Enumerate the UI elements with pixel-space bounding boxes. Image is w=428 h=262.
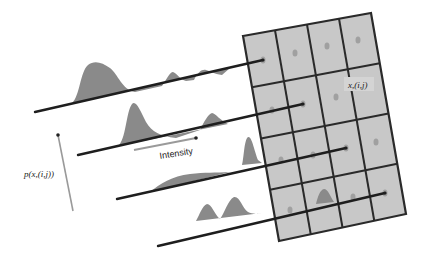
distribution-row-3-peak: [242, 137, 262, 165]
cell-dot: [293, 50, 298, 57]
cell-dot: [325, 43, 330, 50]
intensity-line-1: [35, 60, 263, 112]
endpoint-dot: [261, 58, 264, 61]
intensity-label: Intensity: [159, 146, 194, 161]
probability-label: p(x,(i,j)): [23, 169, 54, 179]
endpoint-dot: [383, 191, 386, 194]
pixel-intensity-distribution-diagram: Intensity p(x,(i,j)) x,(i,j): [0, 0, 428, 262]
endpoint-dot: [344, 146, 347, 149]
cell-dot: [356, 37, 361, 44]
intensity-arrow-head-dot: [194, 136, 198, 140]
cell-dot: [288, 207, 293, 214]
pixel-label: x,(i,j): [347, 80, 368, 90]
endpoint-dot: [301, 102, 304, 105]
distribution-row-4: [196, 197, 262, 221]
probability-arrow: [56, 133, 73, 211]
probability-arrow-head-dot: [56, 133, 60, 137]
cell-dot: [334, 94, 339, 101]
distribution-row-1: [72, 62, 230, 103]
probability-arrow-line: [58, 135, 73, 211]
cell-dot: [374, 139, 379, 146]
